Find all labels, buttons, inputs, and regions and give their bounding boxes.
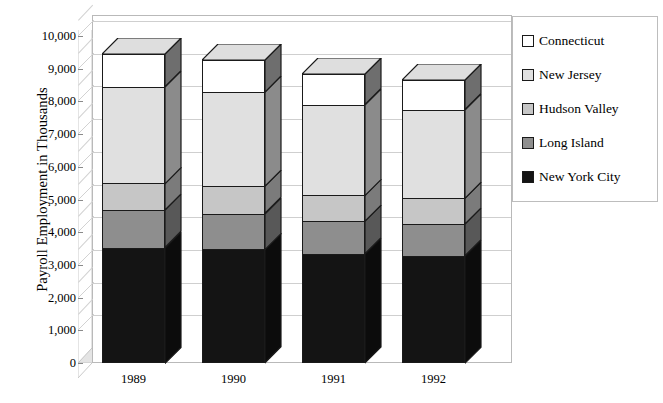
bar-segment-side — [365, 238, 383, 365]
depth-gridline — [78, 20, 93, 36]
bar-segment — [402, 256, 465, 363]
bar-segment — [202, 249, 265, 363]
legend-item[interactable]: Long Island — [522, 135, 604, 151]
bar-segment — [302, 195, 365, 221]
bar-column — [402, 0, 465, 363]
bar-top-face — [302, 58, 383, 76]
bar-segment — [102, 248, 165, 363]
bar-segment — [302, 254, 365, 363]
y-tick-mark — [78, 363, 83, 364]
legend-swatch-icon — [522, 103, 534, 115]
depth-gridline — [78, 53, 93, 69]
y-tick-mark — [78, 101, 83, 102]
legend-item[interactable]: New Jersey — [522, 67, 602, 83]
legend-swatch-icon — [522, 171, 534, 183]
y-tick-label: 3,000 — [14, 260, 76, 270]
bar-segment — [302, 105, 365, 196]
bar-segment — [202, 214, 265, 250]
depth-gridline — [78, 85, 93, 101]
y-tick-label: 7,000 — [14, 129, 76, 139]
bar-top-face — [102, 38, 183, 56]
y-tick-label: 10,000 — [14, 31, 76, 41]
bar-top-face — [202, 44, 283, 62]
y-tick-label: 8,000 — [14, 96, 76, 106]
legend-item[interactable]: Hudson Valley — [522, 101, 619, 117]
legend-swatch-icon — [522, 35, 534, 47]
legend-label: New Jersey — [539, 67, 602, 83]
bar-segment — [402, 80, 465, 109]
y-tick-mark — [78, 167, 83, 168]
legend-label: Connecticut — [539, 33, 604, 49]
legend-label: New York City — [539, 169, 620, 185]
legend-label: Hudson Valley — [539, 101, 619, 117]
y-tick-mark — [78, 232, 83, 233]
y-tick-mark — [78, 265, 83, 266]
depth-gridline — [78, 314, 93, 330]
legend: ConnecticutNew JerseyHudson ValleyLong I… — [512, 16, 658, 202]
bar-segment — [202, 92, 265, 186]
y-tick-label: 1,000 — [14, 325, 76, 335]
bar-segment — [202, 60, 265, 92]
y-tick-mark — [78, 134, 83, 135]
x-tick-label: 1989 — [89, 372, 179, 387]
x-tick-label: 1991 — [289, 372, 379, 387]
stacked-bar-chart: Payroll Employment in Thousands 01,0002,… — [0, 0, 663, 403]
bar-segment-side — [165, 232, 183, 365]
depth-gridline — [78, 249, 93, 265]
bar-segment — [102, 183, 165, 210]
x-tick-label: 1992 — [389, 372, 479, 387]
y-axis-title: Payroll Employment in Thousands — [34, 50, 51, 330]
y-tick-mark — [78, 298, 83, 299]
legend-label: Long Island — [539, 135, 604, 151]
y-tick-label: 2,000 — [14, 293, 76, 303]
x-tick-label: 1990 — [189, 372, 279, 387]
bar-column — [102, 0, 165, 363]
bar-segment-side — [465, 240, 483, 365]
bar-segment — [102, 210, 165, 247]
legend-item[interactable]: Connecticut — [522, 33, 604, 49]
bar-segment — [302, 221, 365, 254]
y-tick-label: 0 — [14, 358, 76, 368]
bar-segment — [402, 198, 465, 224]
y-tick-mark — [78, 330, 83, 331]
bar-column — [202, 0, 265, 363]
legend-swatch-icon — [522, 69, 534, 81]
y-tick-label: 5,000 — [14, 195, 76, 205]
y-tick-mark — [78, 69, 83, 70]
bar-segment — [102, 87, 165, 184]
depth-gridline — [78, 184, 93, 200]
y-tick-label: 4,000 — [14, 227, 76, 237]
bar-segment — [102, 54, 165, 87]
y-tick-mark — [78, 200, 83, 201]
bar-top-face — [402, 64, 483, 82]
depth-gridline — [78, 216, 93, 232]
legend-swatch-icon — [522, 137, 534, 149]
legend-item[interactable]: New York City — [522, 169, 620, 185]
bar-column — [302, 0, 365, 363]
bar-segment — [402, 110, 465, 198]
y-tick-label: 6,000 — [14, 162, 76, 172]
bar-segment — [302, 74, 365, 104]
bar-segment — [402, 224, 465, 256]
depth-gridline — [78, 118, 93, 134]
bar-segment-side — [265, 233, 283, 365]
y-tick-mark — [78, 36, 83, 37]
y-tick-label: 9,000 — [14, 64, 76, 74]
bar-segment — [202, 186, 265, 213]
depth-gridline — [78, 282, 93, 298]
depth-gridline — [78, 151, 93, 167]
